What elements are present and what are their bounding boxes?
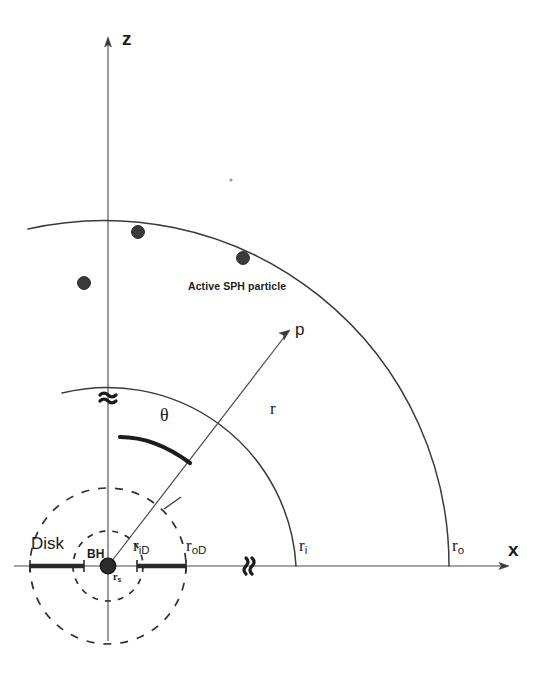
inner-disk-radius-label: riD (133, 537, 150, 557)
radius-tick-mark (164, 497, 181, 509)
inner-disk-radius-label-sub: iD (139, 544, 150, 556)
diagram-figure: z x p r θ ri ro Disk BH rs riD roD Activ… (0, 0, 537, 697)
outer-shell-label: ro (452, 537, 464, 557)
black-hole-label: BH (87, 548, 104, 560)
theta-arc (120, 437, 190, 463)
sph-particle-2 (237, 252, 250, 265)
outer-disk-radius-label: roD (186, 537, 206, 557)
z-axis-group (105, 37, 112, 641)
diagram-canvas (0, 0, 537, 697)
schwarzschild-radius-label-sub: s (117, 576, 121, 583)
outer-shell-arc (28, 221, 449, 566)
outer-shell-label-sub: o (458, 544, 464, 556)
radius-vector-group (108, 330, 290, 566)
scan-artifact-speck (229, 178, 232, 181)
p-vector-label: p (295, 321, 304, 338)
active-sph-particle-caption: Active SPH particle (188, 281, 286, 292)
outer-disk-radius-label-sub: oD (192, 544, 207, 556)
radius-arrowhead (279, 330, 290, 340)
inner-shell-arc (62, 387, 296, 566)
radius-line (108, 336, 285, 566)
schwarzschild-radius-label: rs (113, 572, 121, 584)
x-axis-label: x (508, 540, 519, 559)
disk-label: Disk (31, 535, 64, 552)
x-axis-group (14, 563, 509, 570)
inner-shell-label-sub: i (305, 544, 308, 556)
z-axis-label: z (122, 29, 132, 48)
r-radius-label: r (270, 400, 276, 417)
sph-particle-1 (132, 226, 145, 239)
inner-shell-label: ri (299, 537, 307, 557)
sph-particle-3 (78, 277, 91, 290)
theta-angle-label: θ (160, 406, 169, 424)
